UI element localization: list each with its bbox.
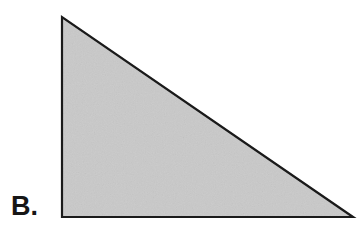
figure-label-b: B. [11, 192, 38, 220]
figure-canvas: B. [0, 0, 361, 226]
right-triangle-figure [0, 0, 361, 226]
